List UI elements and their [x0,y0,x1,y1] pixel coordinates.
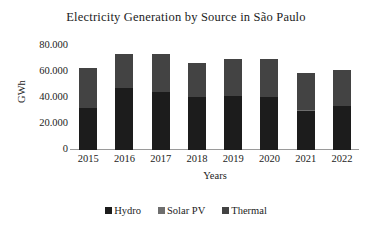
x-tick-label: 2015 [68,153,108,164]
y-tick-label: 80.000 [2,40,68,50]
x-tick-label: 2022 [322,153,362,164]
x-axis-title: Years [70,170,360,181]
x-tick-label: 2017 [141,153,181,164]
bar-group-2022[interactable] [333,41,351,150]
bar-stack [79,68,97,150]
bar-group-2019[interactable] [224,41,242,150]
bar-segment-hydro [224,96,242,150]
x-tick-label: 2019 [213,153,253,164]
bar-segment-thermal [79,68,97,108]
bar-group-2020[interactable] [260,41,278,150]
bar-segment-hydro [79,108,97,150]
bar-segment-hydro [333,106,351,150]
x-tick-label: 2018 [177,153,217,164]
legend-item-solar-pv[interactable]: Solar PV [158,205,205,216]
bar-group-2021[interactable] [297,41,315,150]
chart-legend: HydroSolar PVThermal [0,205,372,216]
legend-label: Thermal [231,205,267,216]
y-tick-label: 40.000 [2,92,68,102]
y-axis-tick-labels: 020.00040.00060.00080.000 [0,0,68,233]
bar-stack [188,63,206,150]
x-tick-label: 2016 [104,153,144,164]
bar-group-2016[interactable] [115,41,133,150]
bar-segment-thermal [297,73,315,111]
plot-area [70,40,360,150]
legend-swatch-icon [105,207,112,214]
y-tick-label: 20.000 [2,118,68,128]
stacked-bar-chart: Electricity Generation by Source in São … [0,0,372,233]
x-tick-label: 2020 [249,153,289,164]
x-tick-label: 2021 [286,153,326,164]
bar-segment-thermal [260,59,278,97]
bar-segment-thermal [115,54,133,88]
y-tick-label: 0 [2,144,68,154]
bar-segment-thermal [188,63,206,97]
legend-label: Solar PV [167,205,205,216]
bar-segment-thermal [333,70,351,106]
bar-segment-hydro [297,111,315,150]
legend-swatch-icon [222,207,229,214]
bar-stack [152,54,170,150]
legend-swatch-icon [158,207,165,214]
bar-segment-hydro [115,88,133,150]
bar-stack [115,54,133,150]
bar-group-2017[interactable] [152,41,170,150]
bar-stack [260,59,278,150]
bar-stack [224,59,242,150]
legend-item-thermal[interactable]: Thermal [222,205,267,216]
legend-label: Hydro [114,205,141,216]
x-axis-tick-labels: 20152016201720182019202020212022 [70,153,360,169]
bar-segment-hydro [260,97,278,150]
y-tick-label: 60.000 [2,66,68,76]
bar-stack [297,73,315,150]
bar-stack [333,70,351,150]
bar-segment-hydro [188,97,206,150]
bar-segment-thermal [152,54,170,91]
bar-segment-hydro [152,92,170,151]
bar-group-2018[interactable] [188,41,206,150]
bar-group-2015[interactable] [79,41,97,150]
legend-item-hydro[interactable]: Hydro [105,205,141,216]
bar-segment-thermal [224,59,242,96]
